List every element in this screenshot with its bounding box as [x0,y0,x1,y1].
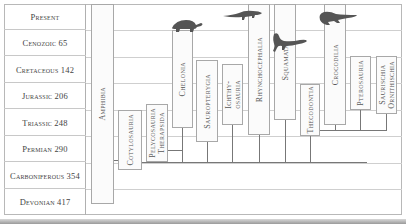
branch-line [259,135,260,162]
branch-line [386,114,387,130]
period-present: Present [4,4,86,30]
grid-line [86,30,402,31]
branch-line [335,125,336,130]
branch-line [320,130,387,131]
crocodile-icon [318,10,358,28]
branch-line [182,128,183,162]
taxon-chelonia: Chelonia [172,30,193,128]
period-devonian: Devonian 417 [4,189,86,215]
turtle-icon [170,18,204,34]
grid-line [86,189,402,190]
period-column: Present Cenozoic 65 Cretaceous 142 Juras… [4,4,86,215]
taxon-squamata: Squamata [274,4,296,120]
branch-line [207,142,208,162]
branch-line [310,136,311,162]
taxon-saurischia-ornithischia: Saurischia Ornithischia [376,56,397,114]
taxon-amphibia: Amphibia [91,4,114,204]
branch-line [360,110,361,130]
taxon-rhynchocephalia: Rhynchocephalia [248,4,270,135]
taxon-pelycosauria-therapsida: Pelycosauria Therapsida [146,104,168,162]
period-carboniferous: Carboniferous 354 [4,163,86,189]
taxon-thecodontia: Thecodontia [300,84,320,136]
period-triassic: Triassic 248 [4,110,86,136]
branch-line [142,162,367,163]
period-cretaceous: Cretaceous 142 [4,57,86,83]
branch-line [285,120,286,162]
period-jurassic: Jurassic 206 [4,83,86,109]
taxon-sauropterygia: Sauropterygia [196,60,218,142]
branch-line [232,125,233,162]
taxon-ichthyosauria: Ichthy- osauria [222,64,243,125]
taxon-cotylosauria: Cotylosauria [118,110,142,170]
period-permian: Permian 290 [4,136,86,162]
taxon-pterosauria: Pterosauria [350,56,371,110]
tuatara-icon [223,8,263,22]
lizard-icon [272,32,308,56]
bottom-shadow [0,219,406,224]
period-cenozoic: Cenozoic 65 [4,30,86,56]
